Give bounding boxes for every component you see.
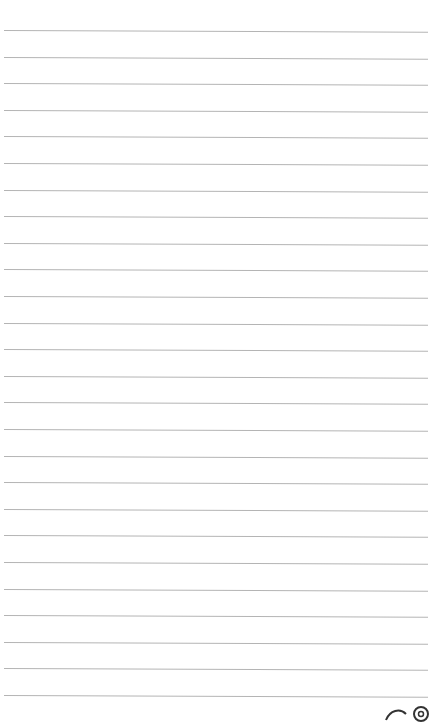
ruled-line <box>4 562 428 565</box>
ruled-line <box>4 57 428 60</box>
ruled-line <box>4 136 428 139</box>
ruled-line <box>4 668 428 671</box>
ruled-line <box>4 615 428 618</box>
ruled-line <box>4 589 428 592</box>
ruled-line <box>4 535 428 538</box>
ruled-line <box>4 482 428 485</box>
ruled-line <box>4 323 428 326</box>
ruled-line <box>4 83 428 86</box>
ruled-line <box>4 349 428 352</box>
ruled-line <box>4 30 428 33</box>
ruled-line <box>4 243 428 246</box>
ruled-line <box>4 163 428 166</box>
ruled-line <box>4 376 428 379</box>
ruled-line <box>4 402 428 405</box>
ruled-line <box>4 216 428 219</box>
brand-logo-icon <box>384 702 430 722</box>
ruled-line <box>4 429 428 432</box>
ruled-line <box>4 296 428 299</box>
ruled-line <box>4 269 428 272</box>
ruled-line <box>4 190 428 193</box>
ruled-line <box>4 509 428 512</box>
ruled-line <box>4 456 428 459</box>
ruled-line <box>4 642 428 645</box>
ruled-line <box>4 110 428 113</box>
ruled-line <box>4 695 428 698</box>
